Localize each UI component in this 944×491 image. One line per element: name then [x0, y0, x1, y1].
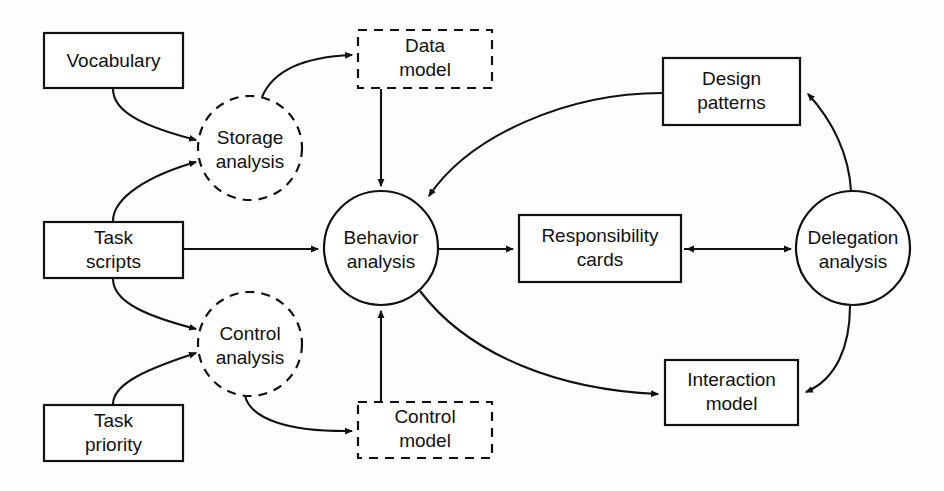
node-delegation-analysis[interactable]: Delegation analysis	[796, 191, 910, 305]
edge-delegation-analysis-to-design-patterns	[808, 94, 851, 191]
node-data-model-label-line2: model	[399, 59, 451, 80]
node-vocabulary-label: Vocabulary	[66, 50, 161, 71]
node-layer: Vocabulary Task scripts Task priority St…	[44, 30, 910, 461]
edge-task-scripts-to-control-analysis	[113, 279, 196, 329]
node-storage-analysis-label-line2: analysis	[216, 151, 285, 172]
node-vocabulary[interactable]: Vocabulary	[44, 33, 183, 88]
node-data-model[interactable]: Data model	[358, 30, 492, 88]
node-design-patterns-label-line2: patterns	[697, 92, 766, 113]
node-behavior-analysis-label-line2: analysis	[347, 251, 416, 272]
node-control-analysis[interactable]: Control analysis	[198, 292, 302, 396]
node-interaction-model[interactable]: Interaction model	[665, 360, 798, 425]
edge-task-scripts-to-storage-analysis	[113, 162, 196, 221]
node-delegation-analysis-label-line1: Delegation	[808, 227, 899, 248]
edge-design-patterns-to-behavior-analysis	[429, 93, 662, 196]
node-behavior-analysis[interactable]: Behavior analysis	[324, 191, 438, 305]
node-task-priority-label-line1: Task	[94, 410, 134, 431]
node-control-analysis-label-line1: Control	[219, 323, 280, 344]
node-responsibility-cards[interactable]: Responsibility cards	[519, 215, 681, 282]
node-behavior-analysis-label-line1: Behavior	[344, 227, 420, 248]
node-task-scripts-label-line2: scripts	[86, 251, 141, 272]
node-control-model-label-line2: model	[399, 430, 451, 451]
edge-vocabulary-to-storage-analysis	[113, 89, 196, 140]
node-task-scripts[interactable]: Task scripts	[44, 222, 183, 278]
node-control-model[interactable]: Control model	[358, 402, 492, 458]
node-storage-analysis[interactable]: Storage analysis	[198, 96, 302, 200]
node-storage-analysis-label-line1: Storage	[217, 127, 284, 148]
node-delegation-analysis-label-line2: analysis	[819, 251, 888, 272]
node-responsibility-cards-label-line1: Responsibility	[541, 225, 659, 246]
diagram-svg: Vocabulary Task scripts Task priority St…	[0, 0, 944, 491]
edge-control-analysis-to-control-model	[245, 396, 352, 431]
node-interaction-model-label-line1: Interaction	[687, 369, 776, 390]
edge-delegation-analysis-to-interaction-model	[806, 306, 850, 392]
edge-task-priority-to-control-analysis	[113, 353, 196, 404]
node-task-priority[interactable]: Task priority	[44, 405, 183, 461]
node-interaction-model-label-line2: model	[706, 393, 758, 414]
node-design-patterns-label-line1: Design	[702, 68, 761, 89]
diagram-canvas: Vocabulary Task scripts Task priority St…	[0, 0, 944, 491]
node-responsibility-cards-label-line2: cards	[577, 249, 623, 270]
node-design-patterns[interactable]: Design patterns	[663, 58, 800, 125]
node-control-model-label-line1: Control	[394, 406, 455, 427]
node-control-analysis-label-line2: analysis	[216, 347, 285, 368]
node-data-model-label-line1: Data	[405, 35, 446, 56]
node-task-priority-label-line2: priority	[85, 434, 143, 455]
edge-storage-analysis-to-data-model	[262, 55, 352, 97]
node-task-scripts-label-line1: Task	[94, 227, 134, 248]
edge-behavior-analysis-to-interaction-model	[420, 291, 658, 394]
